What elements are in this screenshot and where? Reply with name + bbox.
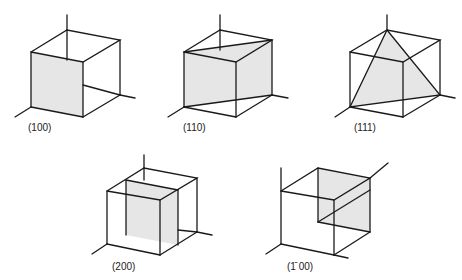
miller-planes-figure: (100) (110) (111) <box>0 0 462 280</box>
label-200: (200) <box>112 261 135 272</box>
plane-200 <box>126 180 178 245</box>
panel-100: (100) <box>15 15 135 133</box>
plane-bar100 <box>318 168 370 232</box>
label-111: (111) <box>354 122 376 133</box>
panel-111: (111) <box>335 15 455 133</box>
panel-110: (110) <box>168 15 288 133</box>
label-110: (110) <box>183 122 206 133</box>
plane-111 <box>350 30 440 107</box>
panel-bar100: (1̄ 00) <box>266 163 388 272</box>
label-100: (100) <box>28 122 51 133</box>
panel-200: (200) <box>92 155 212 272</box>
plane-100 <box>31 52 83 117</box>
label-bar100: (1̄ 00) <box>287 261 313 272</box>
